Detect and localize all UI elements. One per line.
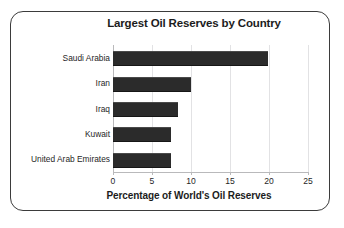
category-label: United Arab Emirates	[0, 153, 110, 164]
x-axis-line	[113, 172, 309, 173]
bar	[113, 102, 178, 117]
x-tick-label: 5	[134, 175, 170, 186]
x-tick-label: 10	[173, 175, 209, 186]
bar-row	[113, 147, 308, 172]
x-tick-label: 25	[290, 175, 326, 186]
chart-title: Largest Oil Reserves by Country	[0, 17, 344, 29]
gridline	[308, 45, 309, 172]
category-label: Kuwait	[0, 128, 110, 139]
x-tick-label: 0	[95, 175, 131, 186]
bar-row	[113, 45, 308, 70]
x-tick-label: 15	[212, 175, 248, 186]
bar	[113, 51, 268, 66]
x-tick-label: 20	[251, 175, 287, 186]
bar	[113, 153, 171, 168]
category-label: Iraq	[0, 103, 110, 114]
x-axis-title: Percentage of World's Oil Reserves	[0, 190, 344, 201]
bar	[113, 127, 171, 142]
plot-area	[113, 45, 308, 172]
bar-row	[113, 121, 308, 146]
category-label: Iran	[0, 77, 110, 88]
category-label: Saudi Arabia	[0, 52, 110, 63]
bar	[113, 77, 191, 92]
bar-row	[113, 70, 308, 95]
bar-row	[113, 96, 308, 121]
chart-figure: Largest Oil Reserves by Country Saudi Ar…	[0, 0, 344, 228]
